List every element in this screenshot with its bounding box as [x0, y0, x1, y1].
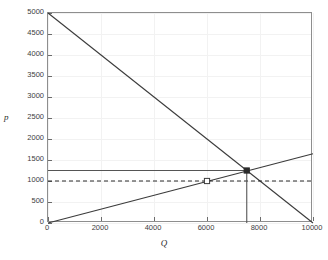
x-tick-label: 2000 [75, 224, 125, 232]
marker-equilibrium-point [244, 168, 249, 173]
y-tick-label: 5000 [4, 8, 44, 16]
y-tick-label: 4000 [4, 50, 44, 58]
x-tick-label: 10000 [287, 224, 328, 232]
x-tick-label: 8000 [234, 224, 284, 232]
x-tick-label: 6000 [181, 224, 231, 232]
y-tick-label: 1000 [4, 176, 44, 184]
x-axis-label: Q [0, 238, 328, 248]
y-tick-label: 500 [4, 197, 44, 205]
series-demand [48, 13, 313, 223]
chart-lines [48, 13, 313, 223]
y-axis-label: p [4, 112, 9, 122]
x-tick-label: 0 [22, 224, 72, 232]
x-axis-tick-labels: 0200040006000800010000 [47, 224, 312, 236]
gridline-vertical [313, 13, 314, 221]
plot-area [47, 12, 312, 222]
y-tick-label: 3000 [4, 92, 44, 100]
x-tick [313, 217, 314, 221]
x-tick-label: 4000 [128, 224, 178, 232]
y-tick-label: 2000 [4, 134, 44, 142]
figure: 0500100015002000250030003500400045005000… [0, 0, 328, 260]
y-tick-label: 1500 [4, 155, 44, 163]
marker-secondary-point [204, 178, 209, 183]
y-tick-label: 4500 [4, 29, 44, 37]
y-tick-label: 2500 [4, 113, 44, 121]
y-tick-label: 3500 [4, 71, 44, 79]
series-supply [48, 154, 313, 223]
